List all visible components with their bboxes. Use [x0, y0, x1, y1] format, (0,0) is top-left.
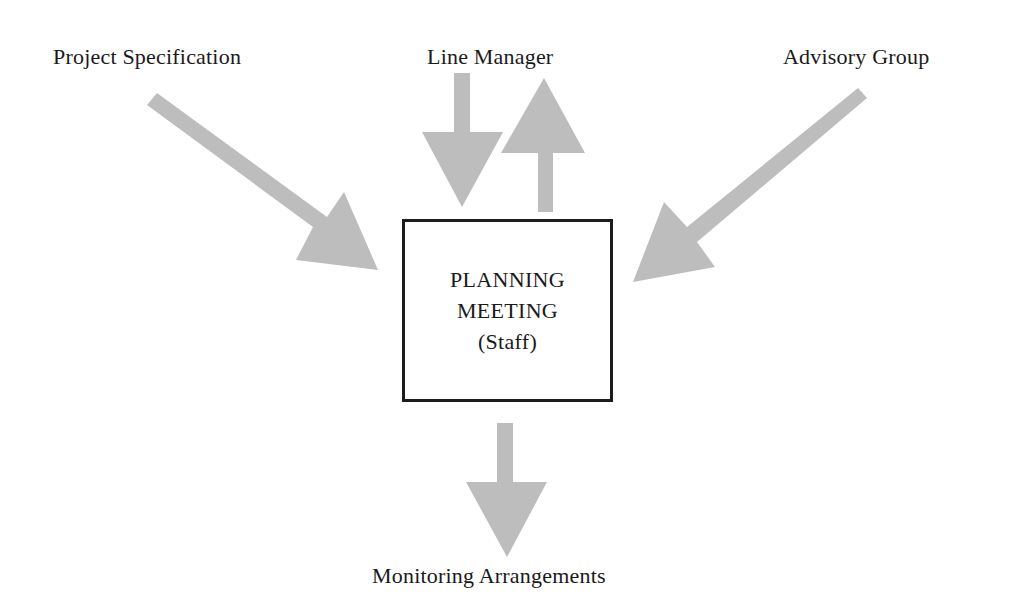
node-project-specification: Project Specification [53, 44, 241, 70]
planning-meeting-line-1: PLANNING [450, 264, 565, 295]
planning-meeting-line-2: MEETING [457, 295, 558, 326]
arrow-project-to-meeting [147, 93, 378, 270]
node-planning-meeting: PLANNING MEETING (Staff) [402, 219, 613, 402]
arrow-meeting-to-monitoring [466, 423, 547, 557]
arrow-line-manager-to-meeting [422, 73, 503, 207]
node-monitoring-arrangements: Monitoring Arrangements [372, 563, 606, 589]
arrow-meeting-to-line-manager [501, 78, 585, 212]
node-line-manager: Line Manager [427, 44, 553, 70]
arrow-advisory-to-meeting [633, 88, 867, 282]
node-advisory-group: Advisory Group [783, 44, 929, 70]
planning-meeting-line-3: (Staff) [478, 326, 537, 357]
